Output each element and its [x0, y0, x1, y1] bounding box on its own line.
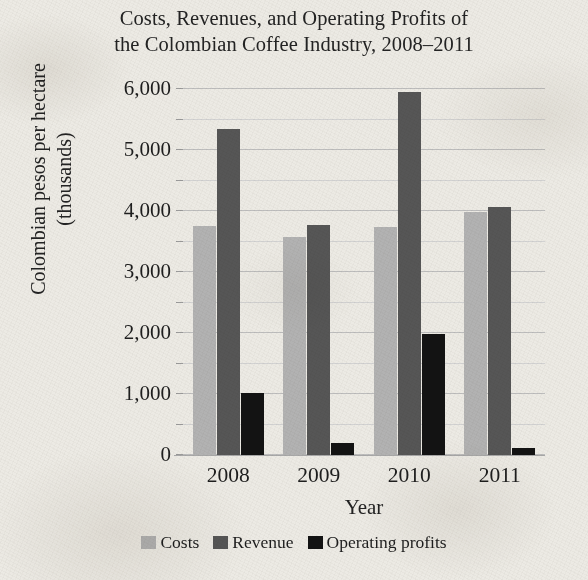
- y-axis-tick: [176, 119, 183, 120]
- chart-title-line-2: the Colombian Coffee Industry, 2008–2011: [0, 31, 588, 57]
- bar-chart-figure: Costs, Revenues, and Operating Profits o…: [0, 0, 588, 580]
- chart-legend: CostsRevenueOperating profits: [0, 533, 588, 552]
- y-axis-tick-label: 1,000: [48, 383, 171, 404]
- legend-item-profits: Operating profits: [308, 533, 447, 552]
- x-axis-tick-labels: 2008200920102011: [183, 462, 545, 492]
- bar-group-2011: [464, 89, 535, 455]
- x-axis-tick-label-2011: 2011: [455, 462, 546, 488]
- y-axis-tick-label: 4,000: [48, 200, 171, 221]
- bar-revenue-2010: [398, 92, 421, 455]
- bar-profits-2009: [331, 443, 354, 455]
- y-axis-tick: [176, 271, 183, 272]
- x-axis-line: [174, 455, 545, 456]
- bar-group-2009: [283, 89, 354, 455]
- y-axis-tick: [176, 302, 183, 303]
- y-axis-tick-label: 6,000: [48, 78, 171, 99]
- y-axis-tick: [176, 363, 183, 364]
- y-axis-tick-label: 5,000: [48, 139, 171, 160]
- x-axis-tick-label-2010: 2010: [364, 462, 455, 488]
- bar-costs-2009: [283, 237, 306, 455]
- legend-label: Costs: [160, 533, 199, 552]
- y-axis-tick-label: 2,000: [48, 322, 171, 343]
- bar-costs-2011: [464, 212, 487, 455]
- y-axis-tick: [176, 332, 183, 333]
- x-axis-tick-label-2009: 2009: [274, 462, 365, 488]
- legend-swatch-icon: [308, 536, 323, 549]
- bar-group-2008: [193, 89, 264, 455]
- bar-profits-2010: [422, 334, 445, 455]
- bar-profits-2008: [241, 393, 264, 455]
- y-axis-tick: [176, 393, 183, 394]
- x-axis-title: Year: [183, 495, 545, 520]
- y-axis-tick-label: 3,000: [48, 261, 171, 282]
- y-axis-tick: [176, 210, 183, 211]
- bar-costs-2010: [374, 227, 397, 455]
- bar-revenue-2011: [488, 207, 511, 455]
- chart-title: Costs, Revenues, and Operating Profits o…: [0, 5, 588, 57]
- legend-label: Revenue: [232, 533, 293, 552]
- bar-costs-2008: [193, 226, 216, 455]
- y-axis-tick: [176, 424, 183, 425]
- bar-profits-2011: [512, 448, 535, 455]
- legend-item-revenue: Revenue: [213, 533, 293, 552]
- x-axis-tick-label-2008: 2008: [183, 462, 274, 488]
- bar-group-2010: [374, 89, 445, 455]
- legend-swatch-icon: [141, 536, 156, 549]
- legend-swatch-icon: [213, 536, 228, 549]
- y-axis-tick: [176, 241, 183, 242]
- legend-item-costs: Costs: [141, 533, 199, 552]
- bar-revenue-2009: [307, 225, 330, 455]
- plot-area: [183, 89, 545, 455]
- y-axis-tick-label: 0: [48, 444, 171, 465]
- y-axis-tick: [176, 149, 183, 150]
- legend-label: Operating profits: [327, 533, 447, 552]
- bar-revenue-2008: [217, 129, 240, 455]
- y-axis-tick: [176, 180, 183, 181]
- chart-title-line-1: Costs, Revenues, and Operating Profits o…: [120, 7, 469, 29]
- y-axis-tick: [176, 88, 183, 89]
